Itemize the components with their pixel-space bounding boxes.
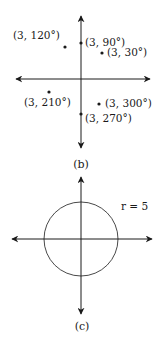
point-30 bbox=[100, 51, 103, 54]
point-90 bbox=[79, 41, 82, 44]
circle-radius-label: r = 5 bbox=[121, 200, 148, 212]
caption-c: (c) bbox=[75, 320, 90, 333]
label-30: (3, 30°) bbox=[107, 46, 147, 58]
point-270 bbox=[79, 112, 82, 115]
caption-b: (b) bbox=[73, 158, 89, 171]
point-300 bbox=[97, 102, 100, 105]
polar-diagrams: (3, 120°) (3, 90°) (3, 30°) (3, 210°) (3… bbox=[0, 0, 162, 355]
figure-b: (3, 120°) (3, 90°) (3, 30°) (3, 210°) (3… bbox=[13, 16, 152, 171]
label-270: (3, 270°) bbox=[85, 112, 132, 124]
point-120 bbox=[63, 45, 66, 48]
label-120: (3, 120°) bbox=[13, 29, 60, 41]
label-300: (3, 300°) bbox=[105, 97, 152, 109]
figure-c: r = 5 (c) bbox=[12, 177, 152, 333]
label-210: (3, 210°) bbox=[24, 96, 71, 108]
point-210 bbox=[47, 90, 50, 93]
